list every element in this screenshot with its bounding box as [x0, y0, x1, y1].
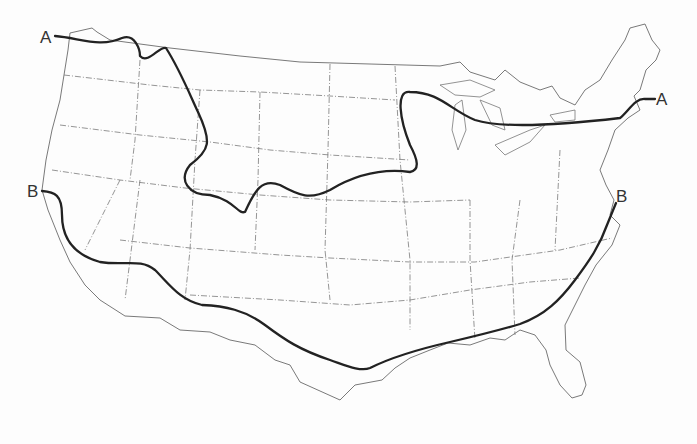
us-outline [42, 24, 660, 400]
great-lakes [440, 80, 575, 155]
us-map: A A B B [0, 0, 697, 444]
label-b-east: B [616, 188, 627, 205]
curve-b [42, 191, 616, 369]
label-a-west: A [40, 29, 51, 46]
label-b-west: B [27, 183, 38, 200]
curve-a [55, 36, 655, 212]
state-borders [52, 60, 612, 340]
map-canvas [0, 0, 697, 444]
label-a-east: A [656, 91, 667, 108]
